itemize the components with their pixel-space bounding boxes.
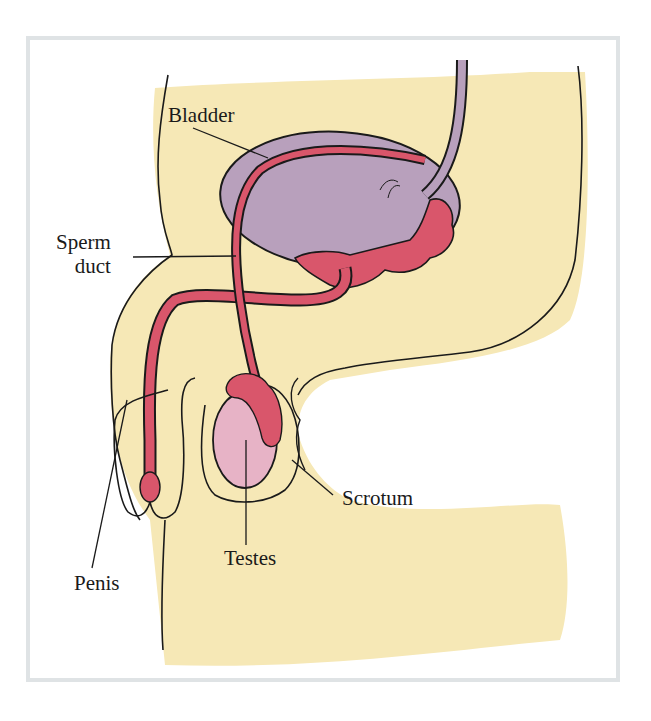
label-bladder: Bladder	[168, 105, 234, 126]
penis-leader	[92, 400, 127, 568]
label-scrotum: Scrotum	[342, 488, 413, 509]
label-sperm-duct-line1: Sperm	[56, 230, 111, 254]
label-sperm-duct-line2: duct	[56, 254, 111, 278]
glans-tip	[140, 472, 160, 502]
anatomy-illustration	[0, 0, 651, 721]
label-penis: Penis	[74, 573, 120, 594]
label-testes: Testes	[224, 548, 276, 569]
label-sperm-duct: Sperm duct	[56, 230, 111, 278]
